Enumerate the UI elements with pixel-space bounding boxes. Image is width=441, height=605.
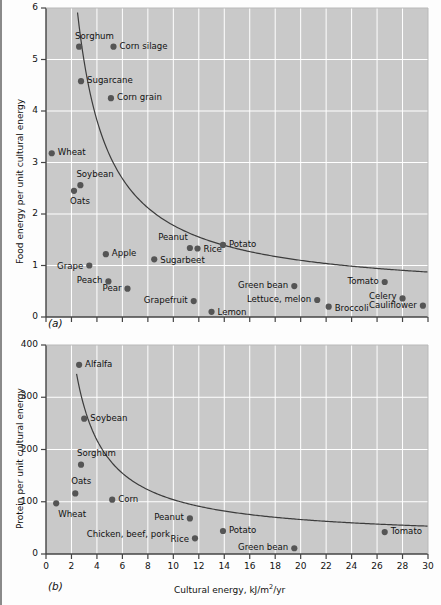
point-label: Sorghum bbox=[75, 32, 114, 41]
figure-container: SorghumCorn silageSugarcaneCorn grainWhe… bbox=[0, 0, 441, 605]
panel-b-y-axis-title: Protein per unit cultural energy bbox=[15, 388, 25, 529]
x-tick-label: 18 bbox=[263, 561, 287, 571]
data-point-marker bbox=[194, 245, 200, 251]
panel-b-id-label: (b) bbox=[48, 580, 63, 592]
x-tick-label: 6 bbox=[110, 561, 134, 571]
point-label: Lemon bbox=[218, 308, 247, 317]
data-point-marker bbox=[208, 309, 214, 315]
panel-b: AlfalfaSoybeanSorghumOatsCornWheatPeanut… bbox=[2, 337, 441, 605]
point-label: Oats bbox=[70, 197, 90, 206]
point-label: Green bean bbox=[2, 543, 288, 552]
data-point-marker bbox=[382, 529, 388, 535]
point-label: Corn grain bbox=[117, 93, 162, 102]
panel-a-y-axis-title: Food energy per unit cultural energy bbox=[15, 99, 25, 264]
point-label: Corn bbox=[118, 495, 138, 504]
x-tick-label: 30 bbox=[416, 561, 440, 571]
x-tick-label: 0 bbox=[34, 561, 58, 571]
data-point-marker bbox=[382, 279, 388, 285]
data-point-marker bbox=[420, 303, 426, 309]
point-label: Corn silage bbox=[119, 42, 167, 51]
data-point-marker bbox=[78, 78, 84, 84]
point-label: Potato bbox=[229, 526, 256, 535]
x-tick-label: 26 bbox=[365, 561, 389, 571]
point-label: Sugarcane bbox=[87, 76, 133, 85]
y-tick-label: 0 bbox=[2, 311, 38, 321]
point-label: Soybean bbox=[76, 170, 113, 179]
point-label: Rice bbox=[204, 245, 222, 254]
superscript-exponent: 2 bbox=[269, 583, 273, 591]
data-point-marker bbox=[187, 245, 193, 251]
data-point-marker bbox=[72, 490, 78, 496]
x-tick-label: 14 bbox=[212, 561, 236, 571]
x-tick-label: 24 bbox=[340, 561, 364, 571]
panel-b-x-axis-title: Cultural energy, kJ/m2/yr bbox=[174, 583, 285, 595]
x-tick-label: 8 bbox=[136, 561, 160, 571]
x-tick-label: 12 bbox=[187, 561, 211, 571]
data-point-marker bbox=[187, 515, 193, 521]
point-label: Broccoli bbox=[335, 304, 369, 313]
data-point-marker bbox=[103, 251, 109, 257]
x-tick-label: 16 bbox=[238, 561, 262, 571]
data-point-marker bbox=[49, 150, 55, 156]
data-point-marker bbox=[192, 535, 198, 541]
data-point-marker bbox=[76, 362, 82, 368]
data-point-marker bbox=[86, 262, 92, 268]
point-label: Potato bbox=[229, 240, 256, 249]
annotation-label: Chicken, beef, pork bbox=[87, 530, 170, 539]
point-label: Tomato bbox=[391, 527, 422, 536]
point-label: Oats bbox=[71, 477, 91, 486]
point-label: Alfalfa bbox=[85, 360, 112, 369]
data-point-marker bbox=[71, 188, 77, 194]
data-point-marker bbox=[151, 256, 157, 262]
data-point-marker bbox=[77, 182, 83, 188]
data-point-marker bbox=[76, 44, 82, 50]
y-tick-label: 6 bbox=[2, 2, 38, 12]
data-point-marker bbox=[78, 462, 84, 468]
x-tick-label: 20 bbox=[289, 561, 313, 571]
y-tick-label: 5 bbox=[2, 54, 38, 64]
point-label: Peanut bbox=[2, 513, 184, 522]
data-point-marker bbox=[108, 95, 114, 101]
x-tick-label: 10 bbox=[161, 561, 185, 571]
y-tick-label: 400 bbox=[2, 339, 38, 349]
point-label: Pear bbox=[2, 284, 121, 293]
point-label: Sugarbeet bbox=[160, 256, 205, 265]
point-label: Sorghum bbox=[77, 449, 116, 458]
data-point-marker bbox=[110, 44, 116, 50]
point-label: Apple bbox=[112, 249, 136, 258]
point-label: Wheat bbox=[58, 148, 86, 157]
data-point-marker bbox=[109, 497, 115, 503]
panel-a: SorghumCorn silageSugarcaneCorn grainWhe… bbox=[2, 0, 441, 330]
data-point-marker bbox=[291, 545, 297, 551]
x-tick-label: 4 bbox=[85, 561, 109, 571]
data-point-marker bbox=[220, 528, 226, 534]
y-tick-label: 0 bbox=[2, 548, 38, 558]
point-label: Soybean bbox=[90, 414, 127, 423]
data-point-marker bbox=[53, 500, 59, 506]
data-point-marker bbox=[81, 416, 87, 422]
point-label: Peanut bbox=[2, 233, 188, 242]
x-tick-label: 2 bbox=[59, 561, 83, 571]
x-tick-label: 28 bbox=[391, 561, 415, 571]
x-tick-label: 22 bbox=[314, 561, 338, 571]
panel-a-id-label: (a) bbox=[48, 317, 63, 329]
